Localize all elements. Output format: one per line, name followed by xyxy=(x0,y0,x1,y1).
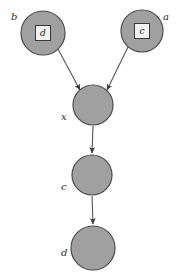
edge-x-to-c xyxy=(92,126,93,153)
node-x-circle[interactable] xyxy=(73,85,113,125)
node-c-label: c xyxy=(61,181,67,192)
edges-group xyxy=(58,47,128,224)
diagram-canvas: d b c a x c d xyxy=(0,0,178,278)
node-c[interactable]: c xyxy=(61,155,112,195)
node-x[interactable]: x xyxy=(61,85,113,125)
node-b-inner-label: d xyxy=(40,28,46,38)
graph-svg: d b c a x c d xyxy=(0,0,178,278)
node-a[interactable]: c a xyxy=(121,10,169,52)
node-a-label: a xyxy=(163,11,169,22)
node-d[interactable]: d xyxy=(61,226,115,270)
edge-c-to-d xyxy=(92,196,93,224)
edge-b-to-x xyxy=(58,49,80,90)
node-c-circle[interactable] xyxy=(72,155,112,195)
edge-a-to-x xyxy=(107,47,128,90)
node-b[interactable]: d b xyxy=(11,11,65,55)
node-d-circle[interactable] xyxy=(71,226,115,270)
node-d-label: d xyxy=(61,247,67,258)
node-x-label: x xyxy=(61,111,67,122)
node-b-label: b xyxy=(11,11,17,22)
node-a-inner-label: c xyxy=(139,26,144,36)
